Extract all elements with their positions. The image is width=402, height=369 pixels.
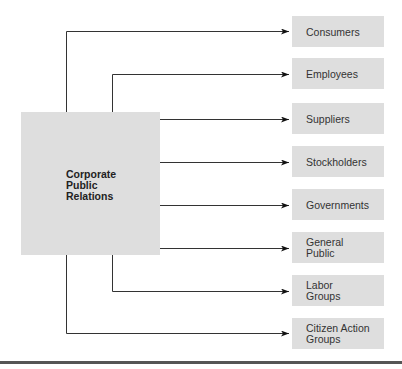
target-label: Labor Groups	[306, 280, 340, 302]
target-label: Governments	[306, 199, 369, 210]
corporate-public-relations-box: Corporate Public Relations	[21, 112, 160, 255]
source-label: Corporate Public Relations	[66, 169, 116, 202]
target-suppliers: Suppliers	[292, 103, 384, 134]
target-label: General Public	[306, 237, 343, 259]
target-governments: Governments	[292, 189, 384, 220]
target-label: Consumers	[306, 26, 360, 37]
bottom-rule	[0, 361, 402, 364]
target-stockholders: Stockholders	[292, 146, 384, 177]
target-citizen-action-groups: Citizen Action Groups	[292, 318, 384, 349]
target-general-public: General Public	[292, 232, 384, 263]
target-consumers: Consumers	[292, 16, 384, 47]
target-label: Employees	[306, 68, 358, 79]
target-labor-groups: Labor Groups	[292, 275, 384, 306]
target-label: Citizen Action Groups	[306, 323, 370, 345]
target-label: Stockholders	[306, 156, 367, 167]
target-label: Suppliers	[306, 113, 350, 124]
target-employees: Employees	[292, 58, 384, 89]
